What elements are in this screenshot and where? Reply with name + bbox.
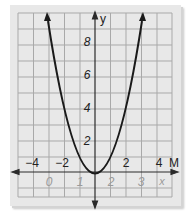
m-tick-neg4: −4 (25, 157, 39, 169)
m-tick-4: 4 (156, 157, 163, 169)
axes (12, 12, 178, 208)
x-tick-0: 0 (46, 176, 53, 188)
m-axis-left-arrow-icon (12, 170, 19, 175)
y-tick-6: 6 (84, 69, 91, 81)
x-tick-3: 3 (138, 176, 145, 188)
m-tick-neg2: −2 (55, 157, 69, 169)
x-tick-2: 2 (108, 176, 115, 188)
m-axis-label: M (169, 156, 179, 170)
x-tick-1: 1 (77, 176, 84, 188)
m-tick-2: 2 (123, 157, 130, 169)
x-axis-label: x (159, 175, 165, 187)
y-tick-4: 4 (84, 102, 91, 114)
y-axis-down-arrow-icon (93, 201, 98, 208)
y-axis-label: y (100, 12, 106, 26)
m-axis-right-arrow-icon (171, 170, 178, 175)
plot-area (0, 0, 189, 223)
y-tick-8: 8 (84, 36, 91, 48)
y-tick-2: 2 (84, 135, 91, 147)
